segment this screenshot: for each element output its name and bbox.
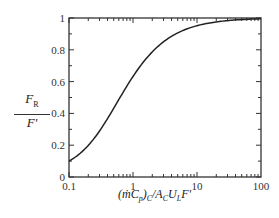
y-tick-label: 0.8: [51, 44, 65, 56]
data-curve: [69, 19, 261, 161]
y-tick-label: 0.2: [51, 139, 65, 151]
y-tick-label: 1: [60, 12, 66, 24]
plot-frame: [69, 18, 261, 177]
y-tick-label: 0.6: [51, 76, 65, 88]
y-axis-label: FR F': [14, 92, 50, 130]
x-tick-label: 0.1: [62, 180, 76, 192]
y-label-denominator: F': [14, 116, 50, 130]
axis-ticks: [69, 18, 261, 177]
x-tick-label: 100: [253, 180, 270, 192]
x-tick-label: 10: [192, 180, 204, 192]
x-axis-label: (ṁCp)C/ACULF': [118, 187, 191, 203]
tick-labels: 00.20.40.60.810.1110100: [51, 12, 270, 192]
y-tick-label: 0.4: [51, 107, 65, 119]
y-label-subscript: R: [33, 100, 38, 109]
